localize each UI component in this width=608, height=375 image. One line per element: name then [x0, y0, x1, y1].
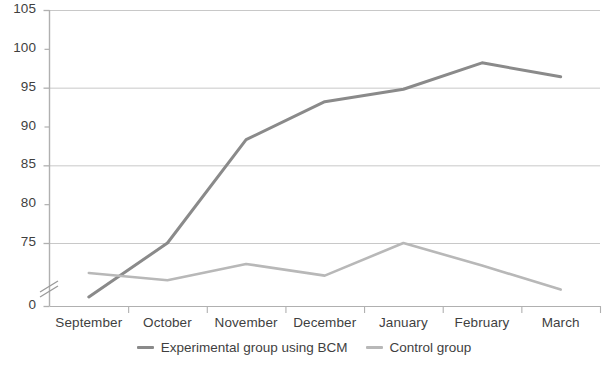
data-series: [89, 63, 561, 297]
y-axis-zero-label: 0: [2, 297, 36, 312]
y-axis-tick-label: 80: [2, 195, 36, 210]
y-axis-minor-ticks: [45, 49, 50, 204]
chart-legend: Experimental group using BCMControl grou…: [0, 340, 608, 355]
x-axis-tick-label: November: [207, 315, 286, 330]
y-axis-tick-label: 75: [2, 234, 36, 249]
x-axis-tick-label: January: [364, 315, 443, 330]
y-axis-tick-label: 85: [2, 156, 36, 171]
y-axis-major-ticks: [44, 11, 50, 307]
gridlines: [50, 11, 601, 244]
x-axis-tick-label: December: [285, 315, 364, 330]
x-axis-tick-label: February: [443, 315, 522, 330]
legend-label: Control group: [390, 340, 472, 355]
x-axis-tick-label: September: [50, 315, 129, 330]
legend-label: Experimental group using BCM: [161, 340, 348, 355]
legend-swatch-icon: [137, 346, 154, 349]
series-line: [89, 63, 561, 297]
legend-item[interactable]: Experimental group using BCM: [137, 340, 348, 355]
legend-item[interactable]: Control group: [366, 340, 472, 355]
line-chart: 10510095908580750 SeptemberOctoberNovemb…: [0, 0, 608, 375]
y-axis-tick-label: 105: [2, 1, 36, 16]
y-axis-tick-label: 100: [2, 40, 36, 55]
legend-swatch-icon: [366, 346, 383, 349]
y-axis-tick-label: 95: [2, 79, 36, 94]
x-axis-tick-label: March: [521, 315, 600, 330]
y-axis-tick-label: 90: [2, 118, 36, 133]
x-axis-tick-label: October: [128, 315, 207, 330]
